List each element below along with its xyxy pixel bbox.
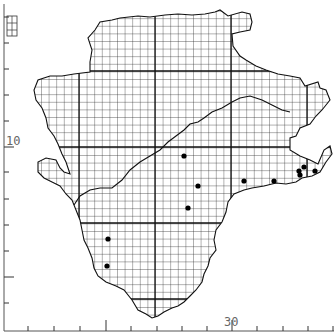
record-dot bbox=[185, 205, 190, 210]
legend-key bbox=[7, 16, 17, 36]
record-dot bbox=[301, 164, 306, 169]
x-axis-label: 30 bbox=[224, 315, 238, 329]
record-dot bbox=[297, 172, 302, 177]
record-dot bbox=[195, 183, 200, 188]
record-dot bbox=[181, 153, 186, 158]
y-axis-label: 10 bbox=[6, 134, 20, 148]
county-grid bbox=[0, 0, 334, 336]
left-axis: 10 bbox=[4, 4, 20, 331]
record-dot bbox=[105, 236, 110, 241]
record-dot bbox=[271, 178, 276, 183]
bottom-axis: 30 bbox=[4, 315, 334, 331]
record-dot bbox=[104, 263, 109, 268]
record-dot bbox=[312, 168, 317, 173]
record-dot bbox=[241, 178, 246, 183]
distribution-map: 10 30 bbox=[0, 0, 334, 336]
